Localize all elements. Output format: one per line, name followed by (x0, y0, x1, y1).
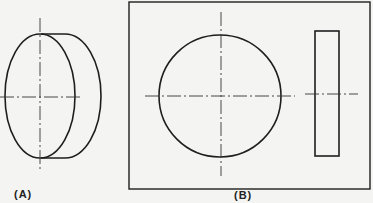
view-b-frame (129, 2, 370, 189)
center-lines (0, 12, 358, 176)
view-b-label: (B) (234, 189, 252, 201)
view-a-label: (A) (14, 188, 32, 200)
cylinder-pictorial-view (5, 34, 101, 158)
side-view-rectangle (315, 31, 339, 156)
technical-drawing (0, 0, 373, 203)
